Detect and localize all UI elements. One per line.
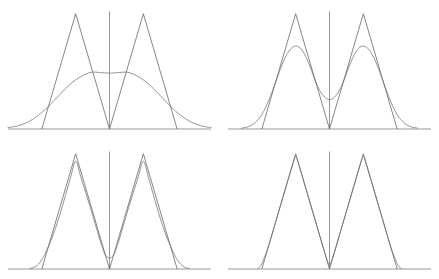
panel-bottom-right-plot bbox=[220, 140, 439, 279]
panel-top-right bbox=[220, 0, 439, 139]
panel-top-left-plot bbox=[0, 0, 219, 139]
panel-bottom-left-plot bbox=[0, 140, 219, 279]
panel-top-right-plot bbox=[220, 0, 439, 139]
density-bandwidth-figure bbox=[0, 0, 439, 279]
panel-top-left bbox=[0, 0, 219, 139]
panel-bottom-right bbox=[220, 140, 439, 279]
panel-bottom-left bbox=[0, 140, 219, 279]
